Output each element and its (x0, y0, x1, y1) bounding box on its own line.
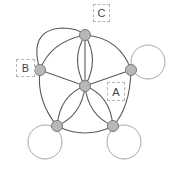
graph-diagram (0, 0, 179, 171)
edge-top-center-right (85, 35, 93, 86)
edge-bottomleft-left (39, 70, 57, 126)
label-a-text: A (112, 86, 119, 98)
node-bottom-left[interactable] (52, 121, 63, 132)
edge-center-bottomleft-a (57, 86, 85, 126)
node-bottom-right[interactable] (108, 121, 119, 132)
edge-bottomright-bottomleft (57, 126, 113, 133)
label-c-text: C (98, 7, 106, 19)
edge-top-center-left (78, 35, 86, 86)
label-c: C (93, 4, 110, 22)
edge-center-bottomleft-b (57, 86, 85, 126)
label-a: A (107, 82, 125, 101)
edge-center-left (40, 70, 85, 86)
label-b-text: B (22, 62, 29, 74)
node-left[interactable] (35, 65, 46, 76)
node-top[interactable] (80, 30, 91, 41)
label-b: B (16, 59, 35, 77)
loop-right (131, 45, 165, 79)
node-right[interactable] (126, 65, 137, 76)
node-center[interactable] (80, 81, 91, 92)
